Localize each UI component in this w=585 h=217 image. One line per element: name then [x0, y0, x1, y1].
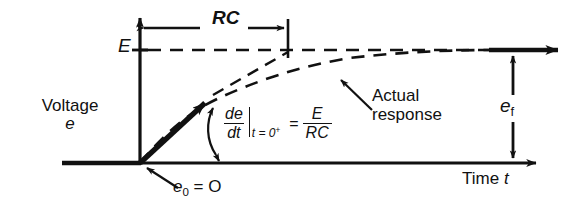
- time-constant-label: RC: [212, 8, 239, 29]
- final-value-label-E: E: [118, 36, 131, 57]
- initial-condition-value: = O: [189, 177, 222, 196]
- evaluation-condition: t = 0+: [252, 126, 280, 140]
- final-voltage-subscript: f: [511, 104, 515, 119]
- tangent-dashed-extension: [213, 52, 288, 95]
- derivative-numerator: de: [222, 106, 246, 123]
- slope-numerator: E: [309, 106, 326, 123]
- initial-slope-formula: de dt t = 0+ = E RC: [222, 106, 332, 141]
- time-axis-label-symbol: t: [504, 169, 509, 188]
- actual-response-label-line1: Actual: [372, 86, 419, 105]
- slope-denominator: RC: [303, 123, 332, 141]
- initial-condition-label: e0 = O: [173, 178, 222, 198]
- axis-group: [62, 18, 536, 165]
- voltage-axis-label-text: Voltage: [42, 96, 99, 115]
- voltage-axis-label: Voltage e: [22, 97, 118, 134]
- evaluation-superscript: +: [276, 126, 281, 135]
- final-voltage-symbol: e: [500, 95, 511, 116]
- formula-equals-sign: =: [289, 115, 298, 133]
- actual-response-label-line2: response: [372, 105, 442, 124]
- rc-step-response-figure: E RC Voltage e Time t e0 = O ef Actual r…: [0, 0, 585, 217]
- derivative-fraction: de dt: [222, 106, 246, 141]
- actual-response-label: Actual response: [372, 86, 442, 124]
- evaluation-value: = 0: [255, 126, 275, 140]
- derivative-denominator: dt: [224, 123, 243, 141]
- final-voltage-label: ef: [500, 96, 514, 119]
- time-axis-label: Time t: [462, 170, 509, 188]
- actual-response-leader-arrow: [341, 80, 372, 110]
- slope-value-fraction: E RC: [303, 106, 332, 141]
- time-axis-label-text: Time: [462, 169, 504, 188]
- voltage-axis-label-symbol: e: [65, 114, 74, 133]
- evaluation-bar: [249, 107, 250, 137]
- slope-angle-arrow: [208, 108, 219, 161]
